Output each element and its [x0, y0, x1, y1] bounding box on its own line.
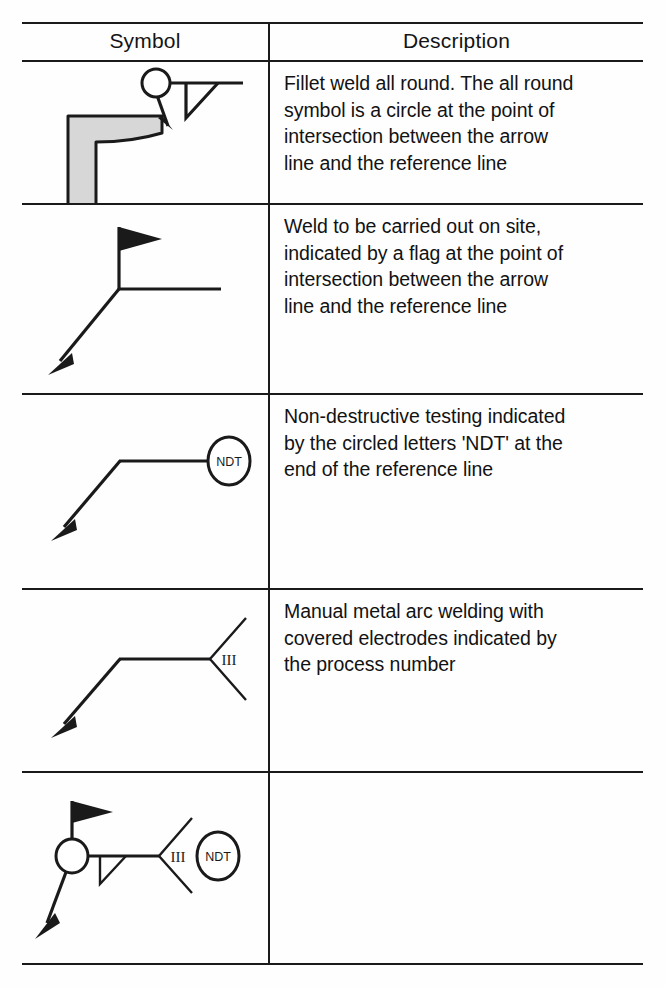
fillet-weld-all-round-symbol: [22, 60, 268, 203]
arrowhead: [51, 716, 77, 738]
description-text: Manual metal arc welding with covered el…: [284, 598, 631, 678]
column-header-description: Description: [270, 22, 643, 60]
arrow-line: [64, 461, 120, 527]
combined-welding-symbol: III NDT: [22, 771, 268, 963]
symbol-cell-fillet-all-round: [22, 60, 268, 203]
site-weld-flag-symbol: [22, 203, 268, 393]
arrow-line: [60, 289, 119, 361]
description-cell: Weld to be carried out on site, indicate…: [270, 203, 643, 393]
site-flag: [72, 801, 113, 823]
description-text: Fillet weld all round. The all round sym…: [284, 70, 631, 176]
ndt-circle-symbol: NDT: [22, 393, 268, 588]
description-cell: Non-destructive testing indicated by the…: [270, 393, 643, 588]
process-number-label: III: [171, 849, 186, 865]
process-number-label: III: [222, 652, 237, 668]
symbol-cell-combined: III NDT: [22, 771, 268, 963]
table-row: Fillet weld all round. The all round sym…: [22, 60, 643, 203]
table-row: Weld to be carried out on site, indicate…: [22, 203, 643, 393]
welding-symbols-table-page: Symbol Description: [0, 0, 665, 989]
ndt-label: NDT: [216, 455, 242, 469]
description-text: Non-destructive testing indicated by the…: [284, 403, 631, 483]
symbol-cell-site-weld-flag: [22, 203, 268, 393]
symbol-cell-process-number: III: [22, 588, 268, 771]
l-bracket-plate: [68, 116, 162, 203]
process-number-tail-symbol: III: [22, 588, 268, 771]
table-row: NDT Non-destructive testing indicated by…: [22, 393, 643, 588]
column-header-symbol: Symbol: [22, 22, 268, 60]
description-cell: [270, 771, 643, 963]
table-row: III Manual metal arc welding with covere…: [22, 588, 643, 771]
all-round-circle: [142, 69, 170, 97]
symbols-table: Symbol Description: [22, 22, 643, 963]
description-cell: Manual metal arc welding with covered el…: [270, 588, 643, 771]
description-text: Weld to be carried out on site, indicate…: [284, 213, 631, 319]
description-cell: Fillet weld all round. The all round sym…: [270, 60, 643, 203]
arrow-line: [64, 659, 120, 724]
fillet-triangle: [186, 83, 218, 118]
ndt-label: NDT: [205, 850, 231, 864]
table-bottom-border: [22, 963, 643, 965]
arrowhead: [51, 519, 77, 541]
all-round-circle: [56, 839, 88, 873]
arrowhead: [35, 913, 60, 939]
symbol-cell-ndt: NDT: [22, 393, 268, 588]
arrowhead: [48, 353, 74, 375]
site-flag: [119, 227, 162, 251]
fillet-triangle: [100, 856, 126, 884]
table-row: III NDT: [22, 771, 643, 963]
